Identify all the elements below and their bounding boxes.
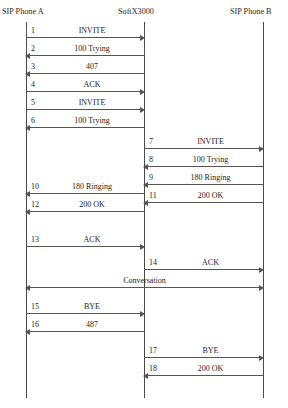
message-label: ACK xyxy=(144,258,263,268)
message-label: 200 OK xyxy=(144,364,263,374)
message-label: 200 OK xyxy=(26,200,144,210)
message-row: 16 487 xyxy=(26,314,144,332)
arrow-shaft xyxy=(26,211,144,212)
message-row: 6 100 Trying xyxy=(26,110,144,128)
message-row: 12 200 OK xyxy=(26,194,144,212)
arrow-shaft xyxy=(26,287,263,288)
message-row: 15 BYE xyxy=(26,296,144,314)
message-row: 9 180 Ringing xyxy=(144,167,263,185)
message-row: 7 INVITE xyxy=(144,131,263,149)
arrow-shaft xyxy=(26,246,144,247)
connector-stub xyxy=(144,46,145,56)
message-label: INVITE xyxy=(144,137,263,147)
message-row: 1 INVITE xyxy=(26,20,144,38)
arrow-shaft xyxy=(26,331,144,332)
message-label: ACK xyxy=(26,235,144,245)
arrow-shaft xyxy=(144,375,263,376)
message-label: INVITE xyxy=(26,98,144,108)
message-label: 100 Trying xyxy=(26,116,144,126)
message-label: INVITE xyxy=(26,26,144,36)
column-header-sip-phone-b: SIP Phone B xyxy=(230,7,272,17)
message-label: 200 OK xyxy=(144,191,263,201)
lifeline-sip-phone-b xyxy=(263,22,264,398)
message-row: 18 200 OK xyxy=(144,358,263,376)
message-row: 4 ACK xyxy=(26,74,144,92)
column-header-softx3000: SoftX3000 xyxy=(118,7,154,17)
message-row: 3 407 xyxy=(26,56,144,74)
message-row: 2 100 Trying xyxy=(26,38,144,56)
message-row: 11 200 OK xyxy=(144,185,263,203)
sip-sequence-diagram: SIP Phone A SoftX3000 SIP Phone B 1 INVI… xyxy=(0,0,288,408)
message-row: 10 180 Ringing xyxy=(26,176,144,194)
message-label: 180 Ringing xyxy=(26,182,144,192)
message-label: 407 xyxy=(26,62,144,72)
message-label: Conversation xyxy=(26,276,263,286)
arrow-shaft xyxy=(26,127,144,128)
message-label: 487 xyxy=(26,320,144,330)
message-label: 100 Trying xyxy=(26,44,144,54)
column-header-sip-phone-a: SIP Phone A xyxy=(2,7,44,17)
message-row: 13 ACK xyxy=(26,229,144,247)
message-row-conversation: Conversation xyxy=(26,270,263,288)
message-label: BYE xyxy=(144,346,263,356)
message-label: 180 Ringing xyxy=(144,173,263,183)
arrow-shaft xyxy=(144,202,263,203)
message-row: 5 INVITE xyxy=(26,92,144,110)
message-row: 14 ACK xyxy=(144,252,263,270)
message-label: 100 Trying xyxy=(144,155,263,165)
message-row: 8 100 Trying xyxy=(144,149,263,167)
message-label: ACK xyxy=(26,80,144,90)
message-row: 17 BYE xyxy=(144,340,263,358)
message-label: BYE xyxy=(26,302,144,312)
